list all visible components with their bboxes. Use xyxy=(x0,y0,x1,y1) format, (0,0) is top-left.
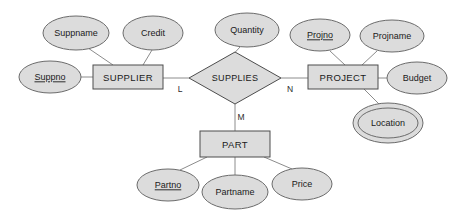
attribute-label: Quantity xyxy=(230,25,264,35)
attribute-suppname[interactable]: Suppname xyxy=(43,16,109,50)
attribute-label: Partno xyxy=(155,180,182,190)
attribute-label: Price xyxy=(292,179,313,189)
er-diagram-canvas: Suppname Credit Suppno Quantity Projno P… xyxy=(0,0,463,217)
edge-credit-supplier xyxy=(143,50,152,65)
attribute-projname[interactable]: Projname xyxy=(360,20,424,52)
attribute-label: Projno xyxy=(307,30,333,40)
edge-part-price xyxy=(264,157,292,169)
edge-suppname-supplier xyxy=(88,48,113,65)
entity-project[interactable]: PROJECT xyxy=(308,65,378,89)
relationship-supplies[interactable]: SUPPLIES xyxy=(189,52,281,104)
attribute-partname[interactable]: Partname xyxy=(202,175,268,209)
attribute-label: Suppno xyxy=(34,72,65,82)
entity-label: PROJECT xyxy=(319,72,366,83)
entity-label: PART xyxy=(222,139,248,150)
entity-supplier[interactable]: SUPPLIER xyxy=(93,65,163,89)
entity-part[interactable]: PART xyxy=(200,131,270,157)
edge-projno-project xyxy=(330,51,345,65)
attribute-label: Projname xyxy=(373,31,412,41)
attribute-label: Partname xyxy=(215,187,254,197)
attribute-partno-key[interactable]: Partno xyxy=(137,169,199,201)
attribute-label: Budget xyxy=(403,73,432,83)
attribute-location-multivalued[interactable]: Location xyxy=(353,103,423,143)
cardinality-label-l: L xyxy=(178,84,183,94)
relationship-label: SUPPLIES xyxy=(212,73,258,83)
attribute-quantity[interactable]: Quantity xyxy=(215,13,279,47)
attribute-price[interactable]: Price xyxy=(272,168,332,200)
entity-label: SUPPLIER xyxy=(103,72,153,83)
attribute-budget[interactable]: Budget xyxy=(387,62,447,94)
er-diagram-svg: Suppname Credit Suppno Quantity Projno P… xyxy=(0,0,463,217)
edge-part-partno xyxy=(180,157,207,170)
attribute-credit[interactable]: Credit xyxy=(123,16,183,50)
edge-projname-project xyxy=(362,51,377,65)
cardinality-label-m: M xyxy=(237,112,244,122)
cardinality-label-n: N xyxy=(287,84,293,94)
attribute-label: Credit xyxy=(141,28,166,38)
attribute-label: Location xyxy=(371,118,405,128)
attribute-label: Suppname xyxy=(54,28,98,38)
attribute-suppno-key[interactable]: Suppno xyxy=(19,61,81,93)
attribute-projno-key[interactable]: Projno xyxy=(290,19,350,51)
